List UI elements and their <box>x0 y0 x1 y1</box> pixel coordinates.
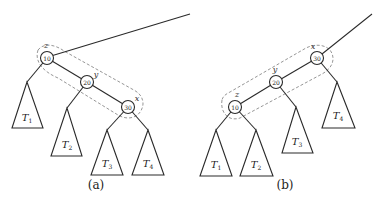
subtree-t2-b: T2 <box>240 130 273 176</box>
svg-text:10: 10 <box>231 104 239 111</box>
caption-b: (b) <box>276 178 293 192</box>
svg-text:20: 20 <box>272 79 280 86</box>
node-y-b: 20 y <box>270 65 283 89</box>
subtree-t1-b: T1 <box>200 130 232 176</box>
subtree-t2-a: T2 <box>51 108 82 156</box>
panel-a: T1 T2 T3 T4 10 z 20 y 30 x ( <box>12 14 190 192</box>
edge-y-z-b <box>235 82 276 107</box>
svg-text:y: y <box>93 70 99 79</box>
svg-text:x: x <box>311 42 316 51</box>
svg-text:y: y <box>272 65 278 74</box>
edge-parent-b <box>317 14 372 58</box>
node-x-a: 30 x <box>122 94 140 114</box>
svg-text:10: 10 <box>43 55 51 62</box>
svg-text:30: 30 <box>313 55 321 62</box>
edge-parent-a <box>51 14 190 56</box>
subtree-t3-b: T3 <box>282 107 313 153</box>
subtree-t4-a: T4 <box>132 130 164 175</box>
svg-text:20: 20 <box>83 79 91 86</box>
node-z-a: 10 z <box>41 41 54 65</box>
subtree-t3-a: T3 <box>91 130 123 175</box>
panel-b: T1 T2 T3 T4 30 x 20 y 10 z ( <box>200 14 372 192</box>
svg-text:30: 30 <box>124 104 132 111</box>
svg-text:x: x <box>135 94 140 103</box>
svg-text:z: z <box>43 41 49 50</box>
caption-a: (a) <box>88 178 105 192</box>
node-z-b: 10 z <box>229 90 242 114</box>
subtree-t4-b: T4 <box>322 82 355 128</box>
edge-y-x-a <box>87 82 128 107</box>
tree-rotation-diagram: T1 T2 T3 T4 10 z 20 y 30 x ( <box>0 0 380 202</box>
subtree-t1-a: T1 <box>12 82 43 128</box>
svg-text:z: z <box>234 90 240 99</box>
node-y-a: 20 y <box>81 70 99 89</box>
